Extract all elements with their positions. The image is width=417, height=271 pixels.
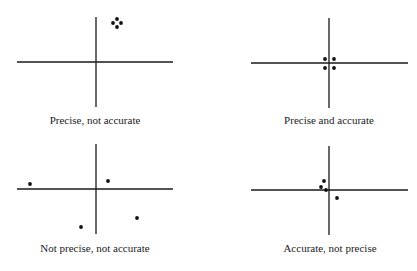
data-point: [323, 57, 327, 61]
data-point: [106, 179, 110, 183]
data-point: [323, 66, 327, 70]
data-point: [79, 225, 83, 229]
caption-accurate-not-precise: Accurate, not precise: [283, 242, 376, 254]
panel-precise-not-accurate: [17, 17, 173, 107]
data-point: [135, 216, 139, 220]
panel-accurate-not-precise: [251, 146, 408, 235]
data-point: [332, 66, 336, 70]
data-point: [115, 17, 119, 21]
data-point: [335, 196, 339, 200]
data-point: [28, 182, 32, 186]
data-point: [115, 25, 119, 29]
data-point: [319, 185, 323, 189]
precision-accuracy-diagram: [0, 0, 417, 271]
panel-precise-and-accurate: [251, 18, 408, 108]
panel-not-precise-not-accurate: [17, 144, 173, 234]
data-point: [111, 21, 115, 25]
data-point: [119, 21, 123, 25]
data-point: [332, 57, 336, 61]
caption-precise-not-accurate: Precise, not accurate: [50, 114, 141, 126]
caption-precise-and-accurate: Precise and accurate: [284, 114, 374, 126]
caption-not-precise-not-accurate: Not precise, not accurate: [40, 242, 149, 254]
data-point: [322, 179, 326, 183]
data-point: [324, 188, 328, 192]
